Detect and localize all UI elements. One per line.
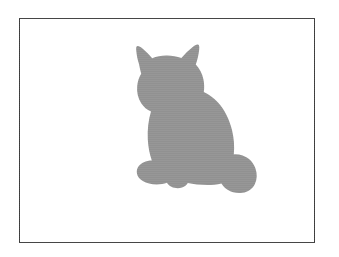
image-border: sitting cat facing left (19, 18, 315, 243)
silhouette-layer: sitting cat facing left (20, 19, 314, 242)
cat-silhouette-graphic: sitting cat facing left (20, 19, 316, 244)
figure-canvas: sitting cat facing left (0, 0, 339, 257)
cat-silhouette-path (136, 45, 257, 194)
